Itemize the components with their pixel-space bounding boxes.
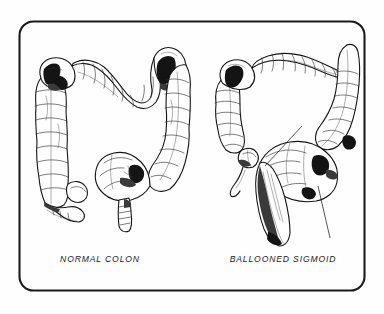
anatomy-diagram-svg: NORMAL COLON — [0, 0, 384, 314]
hepatic-flexure-2 — [220, 60, 254, 90]
caption-ballooned-sigmoid: BALLOONED SIGMOID — [230, 254, 337, 264]
caption-normal-colon: NORMAL COLON — [60, 254, 140, 264]
ascending-colon — [35, 75, 68, 207]
illustration-plate: NORMAL COLON — [0, 0, 384, 314]
rectum — [118, 198, 131, 232]
